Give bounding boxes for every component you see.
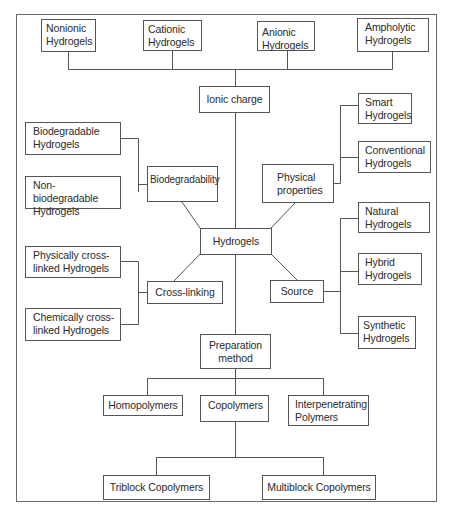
node-ampholytic-hydrogels: Ampholytic Hydrogels [357, 18, 429, 52]
node-nonionic-hydrogels: Nonionic Hydrogels [41, 19, 96, 52]
node-conventional-hydrogels: Conventional Hydrogels [358, 141, 431, 173]
node-biodegradability: Biodegradability [147, 166, 218, 202]
node-source: Source [270, 280, 324, 303]
node-preparation-method: Preparation method [200, 334, 271, 369]
node-hydrogels-root: Hydrogels [200, 228, 272, 255]
node-homopolymers: Homopolymers [103, 395, 183, 416]
node-physically-cross-linked-hydrogels: Physically cross- linked Hydrogels [25, 246, 121, 278]
node-ionic-charge: Ionic charge [199, 86, 270, 113]
node-interpenetrating-polymers: Interpenetrating Polymers [288, 395, 369, 426]
node-physical-properties: Physical properties [262, 164, 334, 203]
node-biodegradable-hydrogels: Biodegradable Hydrogels [25, 122, 121, 155]
node-multiblock-copolymers: Multiblock Copolymers [262, 475, 376, 500]
node-anionic-hydrogels: Anionic Hydrogels [257, 21, 315, 51]
node-hybrid-hydrogels: Hybrid Hydrogels [358, 253, 422, 285]
hydrogel-classification-diagram: Nonionic Hydrogels Cationic Hydrogels An… [0, 0, 451, 518]
node-natural-hydrogels: Natural Hydrogels [358, 202, 430, 233]
node-non-biodegradable-hydrogels: Non-biodegradable Hydrogels [25, 176, 121, 209]
node-chemically-cross-linked-hydrogels: Chemically cross- linked Hydrogels [25, 308, 121, 341]
node-smart-hydrogels: Smart Hydrogels [358, 93, 412, 124]
node-synthetic-hydrogels: Synthetic Hydrogels [358, 316, 416, 349]
node-cationic-hydrogels: Cationic Hydrogels [143, 20, 202, 51]
node-copolymers: Copolymers [200, 395, 269, 422]
node-triblock-copolymers: Triblock Copolymers [103, 475, 210, 500]
node-cross-linking: Cross-linking [147, 281, 223, 304]
